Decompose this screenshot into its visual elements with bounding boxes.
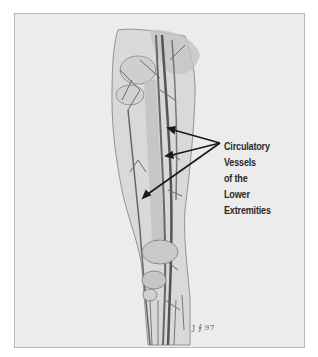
label-line-2: Vessels (224, 154, 271, 170)
artist-signature: J ∮ 97 (191, 323, 214, 332)
figure-label: Circulatory Vessels of the Lower Extremi… (224, 138, 271, 218)
label-line-1: Circulatory (224, 138, 271, 154)
label-line-5: Extremities (224, 202, 271, 218)
label-line-4: Lower (224, 186, 271, 202)
label-line-3: of the (224, 170, 271, 186)
